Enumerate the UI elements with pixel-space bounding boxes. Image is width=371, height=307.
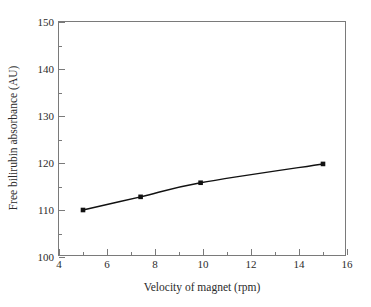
x-axis-tick <box>155 249 156 255</box>
y-axis-tick-label: 100 <box>38 252 55 263</box>
x-axis-tick <box>59 249 60 255</box>
x-axis-tick <box>347 249 348 255</box>
x-axis-tick-label: 6 <box>104 259 110 270</box>
x-axis-minor-tick <box>179 252 180 255</box>
data-point-marker <box>321 162 326 167</box>
series-plot <box>59 22 347 257</box>
x-axis-minor-tick <box>83 252 84 255</box>
y-axis-minor-tick <box>59 46 62 47</box>
x-axis-tick <box>107 249 108 255</box>
series-line <box>83 164 323 210</box>
x-axis-minor-tick <box>323 252 324 255</box>
y-axis-tick <box>59 116 65 117</box>
y-axis-tick-label: 110 <box>38 205 54 216</box>
data-point-marker <box>81 208 86 213</box>
chart-figure: 10011012013014015046810121416 Velocity o… <box>0 0 371 307</box>
y-axis-minor-tick <box>59 93 62 94</box>
x-axis-tick-label: 14 <box>294 259 305 270</box>
x-axis-tick-label: 16 <box>342 259 353 270</box>
y-axis-title: Free bilirubin absorbance (AU) <box>7 66 19 211</box>
x-axis-tick <box>203 249 204 255</box>
y-axis-minor-tick <box>59 234 62 235</box>
x-axis-tick-label: 10 <box>198 259 209 270</box>
x-axis-minor-tick <box>131 252 132 255</box>
y-axis-tick-label: 140 <box>38 64 55 75</box>
y-axis-tick <box>59 163 65 164</box>
y-axis-tick-label: 150 <box>38 17 55 28</box>
y-axis-minor-tick <box>59 187 62 188</box>
x-axis-tick <box>251 249 252 255</box>
data-point-marker <box>198 180 203 185</box>
x-axis-title: Velocity of magnet (rpm) <box>58 281 346 293</box>
x-axis-tick <box>299 249 300 255</box>
y-axis-minor-tick <box>59 140 62 141</box>
data-point-marker <box>138 195 143 200</box>
y-axis-tick <box>59 210 65 211</box>
y-axis-tick-label: 120 <box>38 158 55 169</box>
y-axis-tick <box>59 69 65 70</box>
plot-area: 10011012013014015046810121416 <box>58 21 346 256</box>
x-axis-minor-tick <box>275 252 276 255</box>
y-axis-tick-label: 130 <box>38 111 55 122</box>
x-axis-tick-label: 12 <box>246 259 257 270</box>
x-axis-tick-label: 4 <box>56 259 62 270</box>
x-axis-tick-label: 8 <box>152 259 158 270</box>
y-axis-tick <box>59 22 65 23</box>
x-axis-minor-tick <box>227 252 228 255</box>
